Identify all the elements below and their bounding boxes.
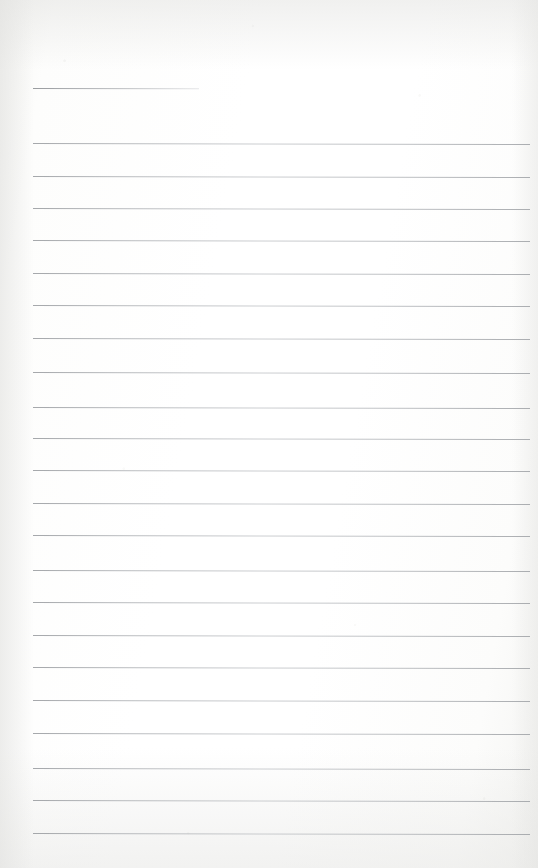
notepad-page (0, 0, 538, 868)
paper-texture-speckle (0, 0, 538, 868)
